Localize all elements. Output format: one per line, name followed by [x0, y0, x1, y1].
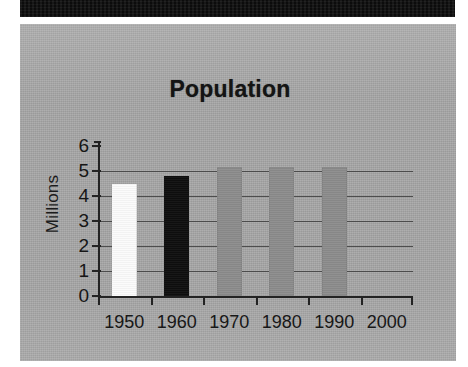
x-tick [203, 296, 205, 305]
bar-texture [322, 167, 347, 296]
x-tick-label-1950: 1950 [104, 312, 144, 333]
bar-texture [112, 184, 137, 297]
bar-1980 [269, 167, 294, 296]
y-axis-top-cap [94, 141, 101, 143]
y-tick [92, 145, 101, 147]
x-tick [308, 296, 310, 305]
bar-1960 [164, 176, 189, 296]
y-tick-label: 6 [78, 135, 89, 157]
gridline [98, 221, 413, 222]
x-tick-label-1980: 1980 [262, 312, 302, 333]
bar-1990 [322, 167, 347, 296]
plot-area: 0123456 195019601970198019902000 [98, 146, 413, 296]
y-tick [92, 220, 101, 222]
bar-texture [269, 167, 294, 296]
gridline [98, 246, 413, 247]
chart-title: Population [20, 76, 440, 103]
gridline [98, 196, 413, 197]
x-tick [411, 296, 413, 305]
y-tick-label: 3 [78, 210, 89, 232]
x-tick-label-1960: 1960 [157, 312, 197, 333]
y-axis-title: Millions [43, 149, 63, 259]
y-tick-label: 5 [78, 160, 89, 182]
bar-texture [164, 176, 189, 296]
x-tick [98, 296, 100, 305]
y-tick [92, 170, 101, 172]
y-tick [92, 195, 101, 197]
x-tick-label-1970: 1970 [209, 312, 249, 333]
y-tick-label: 2 [78, 235, 89, 257]
bar-texture [217, 167, 242, 296]
x-tick-label-2000: 2000 [367, 312, 407, 333]
y-tick-label: 0 [78, 285, 89, 307]
gridline [98, 271, 413, 272]
gridline [98, 171, 413, 172]
bar-1950 [112, 184, 137, 297]
scanned-page-edge-band [20, 0, 455, 17]
x-tick [256, 296, 258, 305]
y-tick-label: 1 [78, 260, 89, 282]
x-tick-label-1990: 1990 [314, 312, 354, 333]
y-tick-label: 4 [78, 185, 89, 207]
x-tick [151, 296, 153, 305]
y-tick [92, 270, 101, 272]
chart-plate: Population Millions 0123456 195019601970… [20, 24, 456, 361]
x-tick [361, 296, 363, 305]
y-tick [92, 245, 101, 247]
bar-1970 [217, 167, 242, 296]
